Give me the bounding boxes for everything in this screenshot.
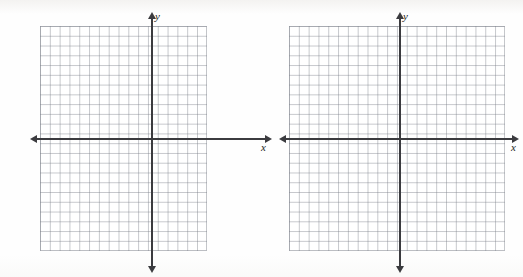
y-axis-bottom-arrow-left bbox=[148, 266, 156, 273]
y-axis-label-right: y bbox=[403, 11, 408, 22]
coordinate-grid-left: x y bbox=[0, 0, 272, 277]
y-axis-line-right bbox=[399, 18, 401, 266]
y-axis-label-left: y bbox=[155, 11, 160, 22]
x-axis-label-right: x bbox=[511, 142, 516, 153]
x-axis-left-arrow-left bbox=[30, 135, 37, 143]
y-axis-line-left bbox=[151, 18, 153, 266]
x-axis-label-left: x bbox=[261, 142, 266, 153]
coordinate-grid-right: x y bbox=[272, 0, 523, 277]
x-axis-right-arrow-left bbox=[265, 135, 272, 143]
x-axis-left-arrow-right bbox=[279, 135, 286, 143]
y-axis-bottom-arrow-right bbox=[396, 266, 404, 273]
